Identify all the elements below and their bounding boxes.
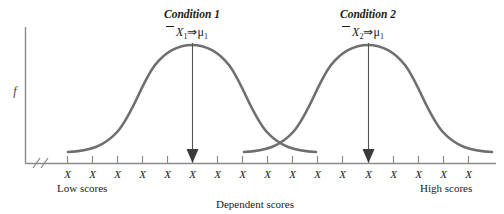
tick-label: X — [313, 168, 322, 180]
tick-label: X — [364, 168, 373, 180]
y-axis-label: f — [13, 84, 18, 98]
tick-label: X — [288, 168, 297, 180]
x-tick-labels: X X X X X X X X X X X X X X X X X — [63, 168, 473, 180]
tick-label: X — [338, 168, 347, 180]
tick-label: X — [389, 168, 398, 180]
tick-label: X — [113, 168, 122, 180]
condition-2-mu-subscript: 1 — [380, 32, 384, 41]
tick-label: X — [439, 168, 448, 180]
condition-2-implies-icon: ⇒ — [363, 25, 373, 39]
condition-1-mu-subscript: 1 — [204, 32, 208, 41]
tick-label: X — [138, 168, 147, 180]
tick-label: X — [213, 168, 222, 180]
tick-label: X — [238, 168, 247, 180]
tick-label: X — [464, 168, 473, 180]
distribution-figure: f Condition 1 X1⇒μ1 Condition 2 X2⇒μ1 X … — [0, 0, 504, 214]
mean-arrow-condition-2 — [363, 43, 375, 163]
condition-1-implies-icon: ⇒ — [187, 25, 197, 39]
tick-label: X — [188, 168, 197, 180]
tick-label: X — [414, 168, 423, 180]
x-axis-title: Dependent scores — [216, 198, 294, 210]
tick-label: X — [88, 168, 97, 180]
condition-1-title: Condition 1 — [164, 8, 220, 20]
mean-arrow-condition-1 — [187, 43, 199, 163]
condition-2-title: Condition 2 — [340, 8, 396, 20]
low-scores-label: Low scores — [57, 182, 107, 194]
condition-2-mean-expression: X2⇒μ1 — [351, 25, 384, 41]
tick-label: X — [163, 168, 172, 180]
x-axis-ticks — [68, 156, 469, 164]
tick-label: X — [263, 168, 272, 180]
tick-label: X — [63, 168, 72, 180]
high-scores-label: High scores — [420, 182, 472, 194]
condition-1-mean-expression: X1⇒μ1 — [175, 25, 208, 41]
